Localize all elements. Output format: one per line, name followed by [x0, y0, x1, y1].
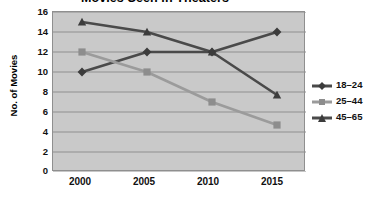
- legend-label: 45–65: [336, 111, 362, 122]
- legend-label: 25–44: [336, 95, 362, 106]
- x-tick-label: 2010: [183, 176, 233, 187]
- x-tick-label: 2005: [119, 176, 169, 187]
- x-tick-label: 2015: [247, 176, 297, 187]
- line-chart-figure: Movies Seen in Theaters No. of Movies 16…: [0, 0, 376, 197]
- square-marker-icon: [311, 94, 333, 106]
- diamond-marker-icon: [311, 78, 333, 90]
- legend-label: 18–24: [336, 79, 362, 90]
- triangle-marker-icon: [311, 110, 333, 122]
- x-tick-label: 2000: [55, 176, 105, 187]
- legend-item-45-65[interactable]: 45–65: [311, 108, 376, 124]
- legend-item-25-44[interactable]: 25–44: [311, 92, 376, 108]
- chart-legend: 18–24 25–44 45–65: [311, 76, 376, 124]
- legend-item-18-24[interactable]: 18–24: [311, 76, 376, 92]
